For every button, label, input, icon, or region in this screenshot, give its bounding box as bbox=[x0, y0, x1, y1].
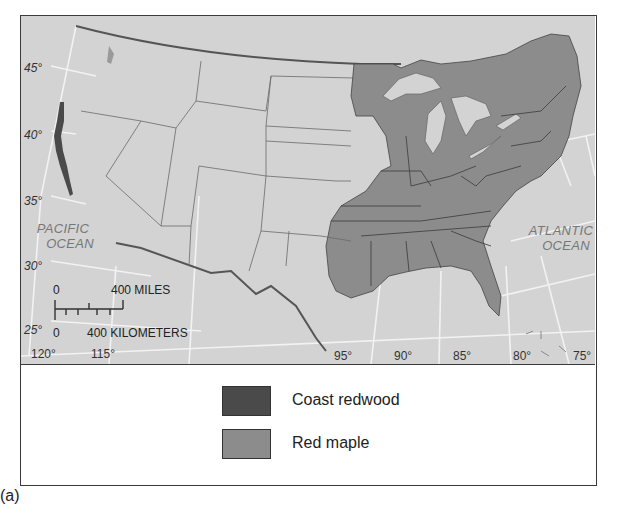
longitude-label-80: 80° bbox=[513, 349, 531, 363]
longitude-label-115: 115° bbox=[91, 347, 115, 361]
pacific-ocean-label: PACIFIC OCEAN bbox=[23, 221, 103, 251]
red-maple-swatch bbox=[222, 429, 271, 459]
state-borders bbox=[81, 61, 354, 271]
longitude-label-75: 75° bbox=[573, 349, 591, 363]
legend-item-coast-redwood: Coast redwood bbox=[222, 386, 422, 418]
pacific-ocean-line-1: PACIFIC bbox=[23, 221, 103, 236]
longitude-label-85: 85° bbox=[453, 349, 471, 363]
latitude-label-40: 40° bbox=[24, 128, 42, 142]
latitude-label-30: 30° bbox=[24, 259, 42, 273]
scale-miles-label: 400 MILES bbox=[111, 283, 170, 297]
longitude-label-120: 120° bbox=[31, 347, 56, 361]
canada-border bbox=[76, 26, 401, 64]
atlantic-ocean-label: ATLANTIC OCEAN bbox=[521, 223, 595, 253]
caribbean-islands bbox=[526, 331, 566, 356]
coast-redwood-label: Coast redwood bbox=[292, 391, 400, 409]
longitude-label-90: 90° bbox=[394, 349, 412, 363]
scale-bar-graphic bbox=[54, 300, 149, 322]
latitude-label-45: 45° bbox=[24, 61, 42, 75]
coast-redwood-swatch bbox=[222, 386, 271, 416]
scale-km-zero: 0 bbox=[53, 326, 60, 340]
puget-sound bbox=[107, 46, 114, 64]
atlantic-ocean-line-2: OCEAN bbox=[521, 238, 595, 253]
legend-items: Coast redwood Red maple bbox=[222, 386, 442, 466]
scale-km-label: 400 KILOMETERS bbox=[87, 326, 188, 340]
scale-miles-zero: 0 bbox=[53, 283, 60, 297]
latitude-label-35: 35° bbox=[24, 194, 42, 208]
range-map: 45° 40° 35° 30° 25° 120° 115° 95° 90° 85… bbox=[21, 16, 595, 365]
atlantic-ocean-line-1: ATLANTIC bbox=[521, 223, 595, 238]
legend-item-red-maple: Red maple bbox=[222, 429, 422, 461]
red-maple-label: Red maple bbox=[292, 434, 369, 452]
longitude-label-95: 95° bbox=[334, 349, 352, 363]
pacific-ocean-line-2: OCEAN bbox=[23, 236, 103, 251]
figure-caption: (a) bbox=[0, 487, 20, 505]
latitude-label-25: 25° bbox=[24, 323, 42, 337]
